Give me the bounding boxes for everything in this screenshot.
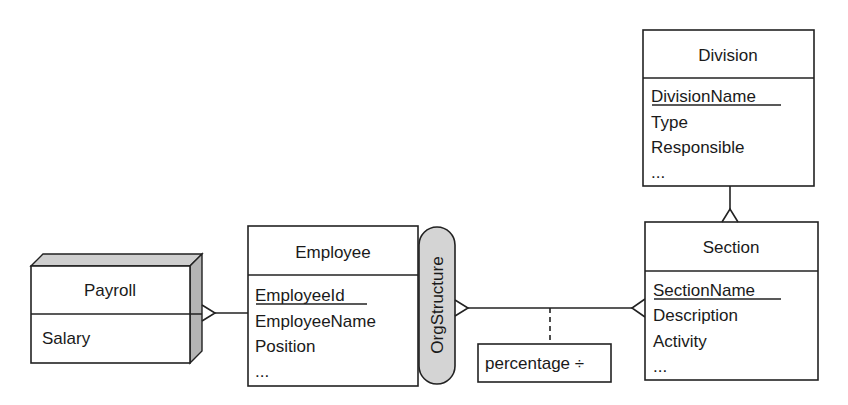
division-title: Division	[698, 46, 758, 65]
division-attr-responsible: Responsible	[651, 138, 745, 157]
payroll-top-face	[31, 254, 202, 266]
role-orgstructure[interactable]: OrgStructure	[419, 227, 455, 384]
percentage-label: percentage ÷	[485, 354, 584, 373]
payroll-title: Payroll	[84, 281, 136, 300]
crows-foot-icon	[202, 305, 215, 321]
relationship-division-section	[722, 186, 738, 222]
section-attr-key: SectionName	[653, 281, 755, 300]
employee-title: Employee	[295, 243, 371, 262]
relationship-payroll-employee	[202, 305, 248, 321]
entity-employee[interactable]: Employee EmployeeId EmployeeName Positio…	[248, 226, 418, 386]
role-label: OrgStructure	[428, 256, 447, 353]
employee-attr-position: Position	[255, 337, 315, 356]
employee-attr-key: EmployeeId	[255, 286, 345, 305]
payroll-attr-salary: Salary	[42, 329, 91, 348]
er-diagram: Payroll Salary Employee EmployeeId Emplo…	[0, 0, 848, 405]
payroll-side-face	[190, 254, 202, 363]
relationship-attribute-percentage[interactable]: percentage ÷	[478, 344, 611, 382]
section-attr-description: Description	[653, 306, 738, 325]
section-attr-activity: Activity	[653, 332, 707, 351]
crows-foot-icon	[455, 300, 468, 316]
entity-section[interactable]: Section SectionName Description Activity…	[645, 222, 818, 380]
crows-foot-icon	[722, 209, 738, 222]
division-attr-type: Type	[651, 113, 688, 132]
employee-attr-name: EmployeeName	[255, 312, 376, 331]
relationship-employee-section	[455, 299, 645, 344]
employee-attr-more: ...	[255, 362, 269, 381]
division-attr-more: ...	[651, 163, 665, 182]
section-attr-more: ...	[653, 357, 667, 376]
entity-division[interactable]: Division DivisionName Type Responsible .…	[643, 30, 814, 186]
crows-foot-icon	[632, 299, 645, 317]
division-attr-key: DivisionName	[651, 87, 756, 106]
section-title: Section	[703, 238, 760, 257]
entity-payroll[interactable]: Payroll Salary	[31, 254, 202, 363]
